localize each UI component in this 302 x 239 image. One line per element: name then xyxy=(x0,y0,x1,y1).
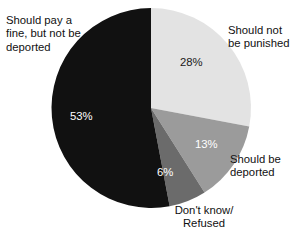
pie-value-label-dont-know-refused: 6% xyxy=(157,166,173,178)
pie-value-label-should-not-be-punished: 28% xyxy=(180,56,203,68)
pie-chart: Should pay a fine, but not be deported S… xyxy=(0,0,302,239)
pie-callout-should-be-deported: Should be deported xyxy=(230,153,281,180)
pie-callout-should-not-be-punished: Should not be punished xyxy=(228,24,290,51)
pie-value-label-should-be-deported: 13% xyxy=(195,138,218,150)
pie-callout-should-pay-fine: Should pay a fine, but not be deported xyxy=(6,14,81,54)
pie-value-label-should-pay-fine: 53% xyxy=(70,110,93,122)
pie-callout-dont-know-refused: Don't know/ Refused xyxy=(154,204,254,231)
